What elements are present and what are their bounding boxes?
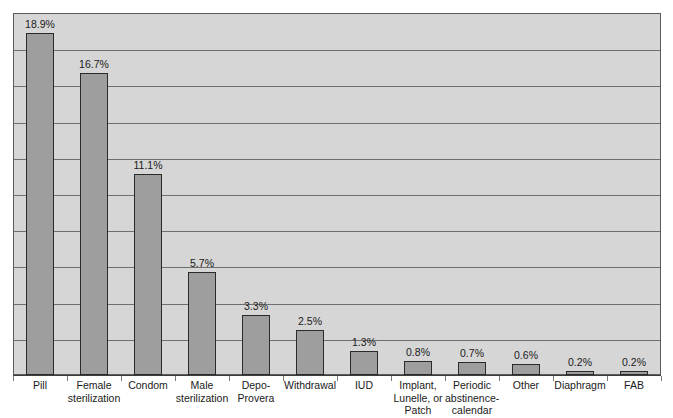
category-labels: PillFemalesterilizationCondomMalesterili…: [13, 379, 661, 418]
category-label-line: FAB: [607, 379, 661, 392]
category-label: Condom: [121, 379, 175, 392]
x-axis-tick: [661, 376, 662, 381]
category-label-line: Patch: [391, 404, 445, 417]
category-label: FAB: [607, 379, 661, 392]
bar-value-label: 0.7%: [460, 348, 484, 359]
bar-slot: 3.3%: [229, 13, 283, 375]
bar-slot: 0.2%: [607, 13, 661, 375]
bar[interactable]: [134, 174, 162, 375]
category-label: Diaphragm: [553, 379, 607, 392]
bar-slot: 0.8%: [391, 13, 445, 375]
bar-value-label: 1.3%: [352, 337, 376, 348]
bar[interactable]: [404, 361, 432, 375]
category-label-line: Lunelle, or: [391, 392, 445, 405]
bar-slot: 2.5%: [283, 13, 337, 375]
bar-value-label: 0.8%: [406, 347, 430, 358]
category-label: Femalesterilization: [67, 379, 121, 404]
bar-value-label: 5.7%: [190, 258, 214, 269]
category-label-line: Pill: [13, 379, 67, 392]
bar[interactable]: [80, 73, 108, 375]
category-label: Withdrawal: [283, 379, 337, 392]
bar-slot: 0.7%: [445, 13, 499, 375]
bar-value-label: 18.9%: [25, 19, 55, 30]
bar[interactable]: [188, 272, 216, 375]
category-label-line: Female: [67, 379, 121, 392]
bars-layer: 18.9%16.7%11.1%5.7%3.3%2.5%1.3%0.8%0.7%0…: [13, 13, 661, 375]
bar[interactable]: [296, 330, 324, 375]
category-label-line: Withdrawal: [283, 379, 337, 392]
bar-slot: 0.6%: [499, 13, 553, 375]
bar-slot: 11.1%: [121, 13, 175, 375]
category-label: Periodicabstinence-calendar: [445, 379, 499, 417]
category-label-line: Diaphragm: [553, 379, 607, 392]
category-label-line: Male: [175, 379, 229, 392]
category-label: Pill: [13, 379, 67, 392]
bar[interactable]: [350, 351, 378, 375]
category-label: Depo-Provera: [229, 379, 283, 404]
bar-chart: 18.9%16.7%11.1%5.7%3.3%2.5%1.3%0.8%0.7%0…: [0, 0, 673, 418]
category-label: Other: [499, 379, 553, 392]
category-label-line: Other: [499, 379, 553, 392]
bar-value-label: 3.3%: [244, 301, 268, 312]
bar-slot: 5.7%: [175, 13, 229, 375]
category-label-line: Periodic: [445, 379, 499, 392]
category-label: Malesterilization: [175, 379, 229, 404]
category-label-line: calendar: [445, 404, 499, 417]
bar-slot: 18.9%: [13, 13, 67, 375]
bar-value-label: 11.1%: [134, 160, 163, 171]
bar[interactable]: [458, 362, 486, 375]
category-label-line: Condom: [121, 379, 175, 392]
category-label-line: Implant,: [391, 379, 445, 392]
bar[interactable]: [26, 33, 54, 375]
category-label-line: abstinence-: [445, 392, 499, 405]
bar-slot: 16.7%: [67, 13, 121, 375]
category-label-line: sterilization: [67, 392, 121, 405]
category-label-line: sterilization: [175, 392, 229, 405]
category-label: IUD: [337, 379, 391, 392]
bar-slot: 1.3%: [337, 13, 391, 375]
bar-value-label: 16.7%: [79, 59, 109, 70]
bar-slot: 0.2%: [553, 13, 607, 375]
category-label-line: Depo-: [229, 379, 283, 392]
bar-value-label: 0.6%: [514, 350, 538, 361]
bar-value-label: 2.5%: [298, 316, 322, 327]
bar-value-label: 0.2%: [568, 357, 592, 368]
bar[interactable]: [512, 364, 540, 375]
bar-value-label: 0.2%: [622, 357, 646, 368]
category-label-line: Provera: [229, 392, 283, 405]
category-label-line: IUD: [337, 379, 391, 392]
bar[interactable]: [242, 315, 270, 375]
category-label: Implant,Lunelle, orPatch: [391, 379, 445, 417]
